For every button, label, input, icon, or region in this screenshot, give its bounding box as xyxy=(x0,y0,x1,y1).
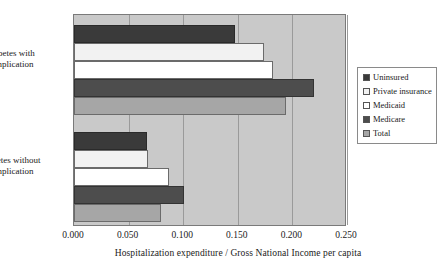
bar-uninsured xyxy=(74,25,235,43)
bar-medicaid xyxy=(74,168,169,186)
legend-label: Uninsured xyxy=(373,73,408,82)
legend-item-uninsured[interactable]: Uninsured xyxy=(363,73,432,82)
bar-private-insurance xyxy=(74,150,148,168)
chart-legend: UninsuredPrivate insuranceMedicaidMedica… xyxy=(357,67,437,144)
plot-area xyxy=(73,14,346,226)
bar-private-insurance xyxy=(74,43,264,61)
bar-group xyxy=(74,25,345,115)
bar-uninsured xyxy=(74,132,147,150)
legend-swatch-icon xyxy=(363,130,370,137)
legend-item-medicare[interactable]: Medicare xyxy=(363,115,432,124)
bar-row xyxy=(74,25,345,43)
bar-row xyxy=(74,132,345,150)
legend-swatch-icon xyxy=(363,102,370,109)
category-label-line: complication xyxy=(0,59,70,70)
bar-row xyxy=(74,150,345,168)
bar-row xyxy=(74,43,345,61)
chart-container: Diabetes withcomplicationDiabetes withou… xyxy=(0,0,440,273)
x-axis-title: Hospitalization expenditure / Gross Nati… xyxy=(0,248,440,258)
legend-label: Medicare xyxy=(373,115,405,124)
bar-medicare xyxy=(74,79,314,97)
legend-swatch-icon xyxy=(363,116,370,123)
bar-total xyxy=(74,204,161,222)
bar-row xyxy=(74,186,345,204)
bar-row xyxy=(74,79,345,97)
legend-item-total[interactable]: Total xyxy=(363,129,432,138)
x-tick-label: 0.050 xyxy=(108,230,148,240)
bar-row xyxy=(74,97,345,115)
bar-medicare xyxy=(74,186,184,204)
x-tick-label: 0.250 xyxy=(326,230,366,240)
bar-total xyxy=(74,97,286,115)
category-label: Diabetes withoutcomplication xyxy=(0,155,70,177)
legend-swatch-icon xyxy=(363,74,370,81)
legend-swatch-icon xyxy=(363,88,370,95)
bar-group xyxy=(74,132,345,222)
category-label: Diabetes withcomplication xyxy=(0,48,70,70)
legend-label: Total xyxy=(373,129,390,138)
legend-label: Private insurance xyxy=(373,87,432,96)
category-label-line: Diabetes without xyxy=(0,155,70,166)
gridline xyxy=(347,15,348,225)
bar-row xyxy=(74,168,345,186)
bar-medicaid xyxy=(74,61,273,79)
legend-label: Medicaid xyxy=(373,101,405,110)
x-axis-title-text: Hospitalization expenditure / Gross Nati… xyxy=(79,248,362,258)
bar-row xyxy=(74,61,345,79)
legend-item-private-insurance[interactable]: Private insurance xyxy=(363,87,432,96)
category-label-line: complication xyxy=(0,166,70,177)
x-tick-label: 0.000 xyxy=(53,230,93,240)
x-tick-label: 0.100 xyxy=(162,230,202,240)
x-tick-label: 0.200 xyxy=(271,230,311,240)
bar-row xyxy=(74,204,345,222)
category-label-line: Diabetes with xyxy=(0,48,70,59)
x-tick-label: 0.150 xyxy=(217,230,257,240)
legend-item-medicaid[interactable]: Medicaid xyxy=(363,101,432,110)
